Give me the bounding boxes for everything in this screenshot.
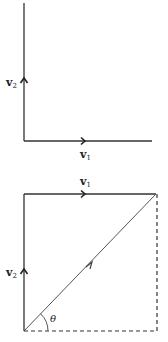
top-v2-label: v2 — [6, 77, 17, 90]
bottom-figure — [21, 191, 158, 332]
resultant-diagonal — [24, 194, 156, 331]
angle-arc — [41, 314, 48, 331]
top-v1-label: v1 — [80, 149, 91, 162]
top-figure — [21, 3, 153, 145]
bottom-v2-label: v2 — [6, 267, 17, 280]
diagram-canvas — [0, 0, 168, 342]
angle-theta-label: θ — [50, 314, 56, 324]
bottom-v1-label: v1 — [80, 176, 91, 189]
